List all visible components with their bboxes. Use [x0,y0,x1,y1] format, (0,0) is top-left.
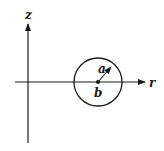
r-axis-label: r [149,76,157,90]
diagram-canvas: z r a b [0,0,164,151]
radius-label: a [98,62,106,76]
center-label: b [94,86,102,100]
z-axis-label: z [24,8,33,22]
